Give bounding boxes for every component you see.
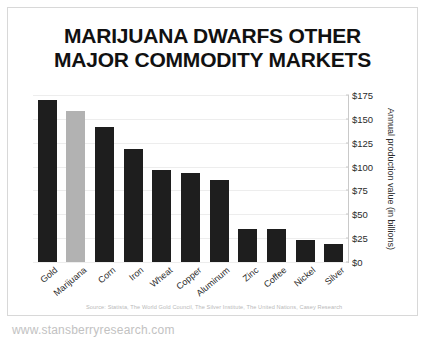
- x-tick-label-nickel: Nickel: [292, 265, 317, 288]
- chart-figure: MARIJUANA DWARFS OTHER MAJOR COMMODITY M…: [0, 0, 427, 345]
- y-tick-label: $75: [352, 185, 368, 196]
- plot-area: [33, 95, 348, 262]
- site-watermark: www.stansberryresearch.com: [12, 323, 175, 337]
- chart-title: MARIJUANA DWARFS OTHER MAJOR COMMODITY M…: [14, 24, 411, 71]
- y-tick-mark: [346, 238, 349, 239]
- x-tick-label-wheat: Wheat: [148, 265, 174, 289]
- y-tick-mark: [346, 166, 349, 167]
- y-tick-label: $50: [352, 209, 368, 220]
- y-tick-mark: [346, 214, 349, 215]
- bar-wheat[interactable]: [152, 170, 171, 262]
- y-axis-title-wrap: Annual production value (in billions): [383, 95, 399, 262]
- y-tick-mark: [346, 118, 349, 119]
- y-tick-mark: [346, 190, 349, 191]
- bar-silver[interactable]: [324, 244, 343, 262]
- y-tick-mark: [346, 142, 349, 143]
- x-tick-label-silver: Silver: [322, 265, 346, 287]
- bar-coffee[interactable]: [267, 229, 286, 262]
- title-line-2: MAJOR COMMODITY MARKETS: [14, 48, 411, 72]
- bar-corn[interactable]: [95, 127, 114, 262]
- y-tick-label: $175: [352, 90, 373, 101]
- y-tick-mark: [346, 95, 349, 96]
- x-tick-label-gold: Gold: [39, 265, 60, 285]
- y-tick-label: $25: [352, 233, 368, 244]
- y-tick-label: $100: [352, 161, 373, 172]
- y-tick-label: $0: [352, 257, 363, 268]
- x-tick-label-iron: Iron: [127, 265, 145, 283]
- bar-copper[interactable]: [181, 173, 200, 262]
- gridline: [33, 95, 348, 96]
- bar-gold[interactable]: [38, 100, 57, 262]
- y-tick-label: $150: [352, 113, 373, 124]
- x-tick-label-corn: Corn: [96, 265, 117, 285]
- source-note: Source: Statista, The World Gold Council…: [86, 304, 342, 310]
- y-tick-label: $125: [352, 137, 373, 148]
- x-axis-labels: GoldMarijuanaCornIronWheatCopperAluminum…: [33, 263, 348, 303]
- title-line-1: MARIJUANA DWARFS OTHER: [14, 24, 411, 48]
- bar-zinc[interactable]: [238, 229, 257, 262]
- bar-iron[interactable]: [124, 149, 143, 262]
- y-axis-title: Annual production value (in billions): [386, 107, 396, 249]
- bar-aluminum[interactable]: [210, 180, 229, 262]
- x-tick-label-coffee: Coffee: [262, 265, 289, 290]
- bar-marijuana[interactable]: [66, 111, 85, 262]
- bar-nickel[interactable]: [296, 240, 315, 262]
- x-tick-label-zinc: Zinc: [241, 265, 260, 284]
